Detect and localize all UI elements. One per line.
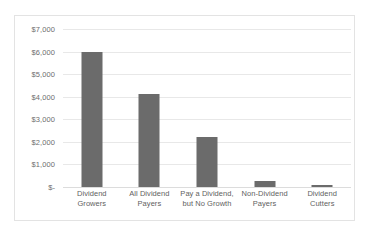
- bar-slot: [121, 29, 179, 187]
- bar-series: [63, 29, 351, 187]
- y-axis-tick-label: $2,000: [31, 137, 55, 146]
- bar-slot: [63, 29, 121, 187]
- x-axis-tick-label: DividendCutters: [293, 189, 351, 209]
- x-axis-tick-label-line: Growers: [63, 199, 121, 209]
- y-axis-tick-label: $5,000: [31, 70, 55, 79]
- bar-slot: [293, 29, 351, 187]
- y-axis-tick-label: $-: [48, 183, 55, 192]
- bar[interactable]: [196, 137, 217, 187]
- y-axis-tick-label: $6,000: [31, 47, 55, 56]
- bar-chart-figure: $7,000$6,000$5,000$4,000$3,000$2,000$1,0…: [14, 15, 355, 221]
- x-axis-tick-label-line: Dividend: [63, 189, 121, 199]
- bar[interactable]: [312, 185, 333, 187]
- x-axis-tick-label-line: Payers: [236, 199, 294, 209]
- y-axis-tick-label: $4,000: [31, 92, 55, 101]
- x-axis-tick-label-line: Non-Dividend: [236, 189, 294, 199]
- x-axis-tick-label-line: but No Growth: [178, 199, 236, 209]
- y-axis-tick-label: $7,000: [31, 25, 55, 34]
- x-axis-tick-label: Pay a Dividend,but No Growth: [178, 189, 236, 209]
- x-axis-tick-label: DividendGrowers: [63, 189, 121, 209]
- y-axis: $7,000$6,000$5,000$4,000$3,000$2,000$1,0…: [15, 29, 59, 187]
- x-axis: DividendGrowersAll DividendPayersPay a D…: [63, 189, 351, 219]
- y-axis-tick-label: $3,000: [31, 115, 55, 124]
- x-axis-tick-label: All DividendPayers: [121, 189, 179, 209]
- gridline: [63, 187, 351, 188]
- x-axis-tick-label: Non-DividendPayers: [236, 189, 294, 209]
- bar[interactable]: [81, 52, 102, 187]
- x-axis-tick-label-line: Dividend: [293, 189, 351, 199]
- y-axis-tick-label: $1,000: [31, 160, 55, 169]
- bar[interactable]: [254, 181, 275, 187]
- x-axis-tick-label-line: Payers: [121, 199, 179, 209]
- plot-area: [63, 29, 351, 187]
- bar-slot: [236, 29, 294, 187]
- x-axis-tick-label-line: Cutters: [293, 199, 351, 209]
- x-axis-tick-label-line: Pay a Dividend,: [178, 189, 236, 199]
- bar-slot: [178, 29, 236, 187]
- x-axis-tick-label-line: All Dividend: [121, 189, 179, 199]
- bar[interactable]: [139, 94, 160, 187]
